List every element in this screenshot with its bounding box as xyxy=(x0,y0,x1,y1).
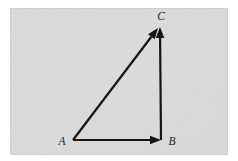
vector-triangle-figure: A B C xyxy=(0,0,238,161)
figure-root: A B C xyxy=(0,0,238,161)
vector-b-to-c-shaft xyxy=(160,38,161,140)
figure-panel-grain xyxy=(10,8,228,155)
vertex-label-b: B xyxy=(168,135,175,147)
vertex-label-c: C xyxy=(157,10,165,22)
vertex-label-a: A xyxy=(57,135,66,147)
